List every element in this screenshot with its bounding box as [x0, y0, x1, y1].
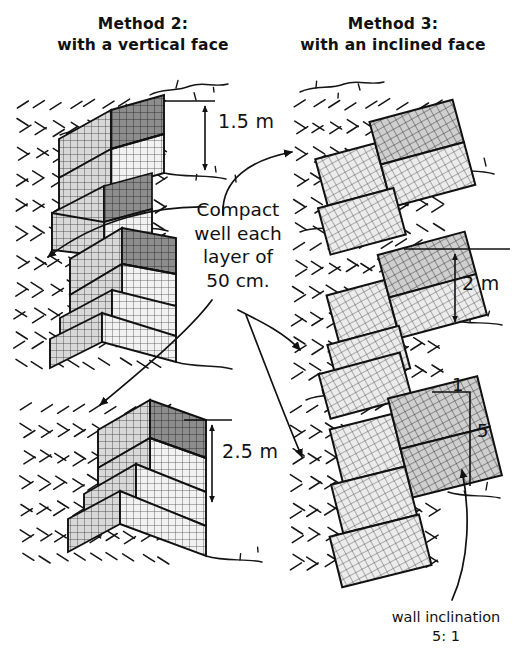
soil-hatch-stroke [434, 224, 445, 231]
soil-hatch-stroke [16, 226, 27, 233]
soil-hatch-stroke [347, 126, 358, 133]
gabion-wall-vertical-2.5m [68, 400, 206, 556]
soil-hatch-stroke [22, 482, 33, 489]
diagram-canvas: Method 2: with a vertical face Method 3:… [0, 0, 520, 661]
soil-hatch-stroke [291, 484, 302, 491]
soil-hatch-stroke [292, 319, 303, 326]
soil-hatch-stroke [326, 285, 337, 292]
arrow-to-bottom-right [246, 315, 302, 457]
soil-hatch-stroke [38, 475, 49, 482]
soil-hatch-stroke [39, 426, 50, 433]
soil-hatch-stroke [18, 261, 29, 268]
soil-hatch-stroke [309, 528, 320, 535]
soil-hatch-stroke [433, 197, 444, 204]
soil-hatch-stroke [346, 265, 357, 272]
soil-hatch-stroke [397, 103, 408, 110]
soil-hatch-stroke [73, 424, 84, 431]
soil-hatch-stroke [329, 267, 340, 274]
soil-hatch-stroke [295, 174, 306, 181]
soil-hatch-stroke [90, 405, 101, 412]
soil-hatch-stroke [311, 312, 322, 319]
soil-hatch-stroke [325, 560, 336, 567]
soil-hatch-stroke [16, 204, 27, 211]
compaction-note: Compact well each layer of 50 cm. [178, 198, 298, 293]
soil-hatch-stroke [23, 553, 34, 560]
soil-hatch-stroke [325, 508, 336, 515]
soil-hatch-stroke [23, 535, 34, 542]
ground-grass-tick [240, 554, 241, 560]
soil-hatch-stroke [309, 431, 320, 438]
soil-hatch-stroke [291, 425, 302, 432]
soil-hatch-stroke [57, 423, 68, 430]
soil-hatch-stroke [99, 358, 110, 365]
soil-hatch-stroke [83, 362, 94, 369]
soil-hatch-stroke [33, 200, 44, 207]
soil-hatch-stroke [31, 282, 42, 289]
soil-hatch-stroke [17, 256, 28, 263]
ground-grass-tick [316, 81, 317, 88]
soil-hatch-stroke [31, 362, 42, 369]
ground-grass-tick [215, 166, 216, 172]
soil-hatch-stroke [31, 234, 42, 241]
soil-hatch-stroke [33, 178, 44, 185]
soil-hatch-stroke [53, 130, 64, 137]
soil-hatch-stroke [84, 99, 95, 106]
soil-hatch-stroke [294, 363, 305, 370]
soil-hatch-stroke [121, 358, 132, 365]
soil-hatch-stroke [123, 554, 134, 561]
wall-inclination-callout: wall inclination 5: 1 [372, 608, 520, 646]
soil-hatch-stroke [16, 310, 27, 317]
diagram-artwork [0, 0, 520, 661]
soil-hatch-stroke [396, 239, 407, 246]
ground-surface-line [206, 556, 262, 562]
soil-hatch-stroke [33, 171, 44, 178]
soil-hatch-stroke [414, 338, 425, 345]
soil-hatch-stroke [33, 101, 44, 108]
soil-hatch-stroke [429, 509, 440, 516]
soil-hatch-stroke [39, 556, 50, 563]
gabion-wall-inclined-1.5m [300, 100, 483, 255]
soil-hatch-stroke [307, 405, 318, 412]
dimension-label-2m: 2 m [462, 272, 500, 294]
soil-hatch-stroke [18, 147, 29, 154]
soil-hatch-stroke [428, 346, 439, 353]
soil-hatch-stroke [105, 407, 116, 414]
soil-hatch-stroke [412, 370, 423, 377]
ground-grass-tick [196, 175, 197, 181]
compaction-note-line-3: layer of [178, 245, 298, 269]
soil-hatch-stroke [294, 504, 305, 511]
soil-hatch-stroke [381, 241, 392, 248]
ground-grass-tick [176, 80, 178, 88]
soil-hatch-stroke [328, 476, 339, 483]
soil-hatch-stroke [20, 403, 31, 410]
soil-hatch-stroke [310, 287, 321, 294]
soil-hatch-stroke [292, 536, 303, 543]
soil-hatch-stroke [20, 423, 31, 430]
soil-hatch-stroke [312, 319, 323, 326]
soil-hatch-stroke [293, 457, 304, 464]
soil-hatch-stroke [426, 503, 437, 510]
soil-hatch-stroke [124, 531, 135, 538]
soil-hatch-stroke [417, 224, 428, 231]
soil-hatch-stroke [73, 404, 84, 411]
soil-hatch-stroke [41, 405, 52, 412]
ground-surface-line [300, 82, 384, 92]
soil-hatch-stroke [329, 101, 340, 108]
soil-hatch-stroke [431, 369, 442, 376]
soil-hatch-stroke [40, 484, 51, 491]
soil-hatch-stroke [308, 534, 319, 541]
soil-hatch-stroke [19, 153, 30, 160]
soil-hatch-stroke [17, 119, 28, 126]
soil-hatch-stroke [37, 507, 48, 514]
soil-hatch-stroke [37, 528, 48, 535]
soil-hatch-stroke [144, 555, 155, 562]
ground-surface-line [448, 492, 500, 498]
soil-hatch-stroke [307, 563, 318, 570]
compaction-note-line-2: well each [178, 222, 298, 246]
soil-hatch-stroke [16, 332, 27, 339]
compaction-note-line-4: 50 cm. [178, 269, 298, 293]
soil-hatch-stroke [32, 290, 43, 297]
soil-hatch-stroke [312, 348, 323, 355]
soil-hatch-stroke [16, 289, 27, 296]
soil-hatch-stroke [379, 99, 390, 106]
